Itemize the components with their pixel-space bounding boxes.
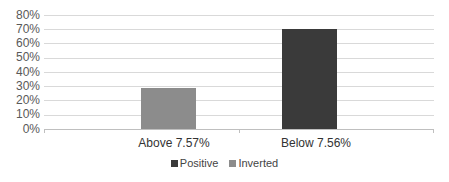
- legend: Positive Inverted: [0, 157, 449, 169]
- y-tick-50: 50%: [0, 51, 40, 63]
- y-tick-20: 20%: [0, 94, 40, 106]
- x-axis-tick: [433, 129, 434, 133]
- x-axis-tick: [44, 129, 45, 133]
- legend-item-positive[interactable]: Positive: [171, 157, 219, 169]
- gridline-20: [44, 100, 434, 101]
- y-tick-40: 40%: [0, 66, 40, 78]
- bar-positive-below[interactable]: [282, 29, 337, 129]
- legend-swatch-inverted: [229, 160, 236, 167]
- gridline-70: [44, 29, 434, 30]
- legend-swatch-positive: [171, 160, 178, 167]
- gridline-30: [44, 86, 434, 87]
- y-tick-80: 80%: [0, 9, 40, 21]
- legend-item-inverted[interactable]: Inverted: [229, 157, 278, 169]
- gridline-50: [44, 58, 434, 59]
- y-tick-10: 10%: [0, 108, 40, 120]
- x-label-below: Below 7.56%: [251, 136, 381, 150]
- x-label-above: Above 7.57%: [109, 136, 239, 150]
- y-tick-60: 60%: [0, 37, 40, 49]
- gridline-80: [44, 15, 434, 16]
- legend-label-positive: Positive: [180, 157, 219, 169]
- x-axis-tick: [239, 129, 240, 133]
- y-tick-70: 70%: [0, 23, 40, 35]
- gridline-10: [44, 115, 434, 116]
- gridline-60: [44, 43, 434, 44]
- y-tick-0: 0%: [0, 123, 40, 135]
- y-tick-30: 30%: [0, 80, 40, 92]
- bar-inverted-above[interactable]: [141, 88, 196, 129]
- legend-label-inverted: Inverted: [238, 157, 278, 169]
- plot-area: [44, 15, 434, 129]
- gridline-40: [44, 72, 434, 73]
